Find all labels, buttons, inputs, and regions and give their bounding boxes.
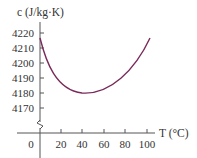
x-tick-labels: 0 20 40 60 80 100 — [28, 138, 156, 150]
svg-text:60: 60 — [99, 138, 111, 150]
svg-text:4180: 4180 — [12, 87, 35, 99]
svg-text:4190: 4190 — [12, 72, 35, 84]
svg-text:0: 0 — [28, 138, 34, 150]
specific-heat-curve — [40, 38, 150, 93]
svg-text:4220: 4220 — [12, 27, 35, 39]
svg-text:20: 20 — [56, 138, 68, 150]
svg-text:4200: 4200 — [12, 57, 35, 69]
chart: 4220 4210 4200 4190 4180 4170 0 20 40 60… — [0, 0, 197, 158]
svg-text:100: 100 — [139, 138, 156, 150]
svg-text:4170: 4170 — [12, 102, 35, 114]
y-tick-labels: 4220 4210 4200 4190 4180 4170 — [12, 27, 35, 114]
svg-text:4210: 4210 — [12, 42, 35, 54]
svg-text:80: 80 — [120, 138, 132, 150]
x-ticks — [61, 129, 147, 133]
x-axis-label: T (°C) — [159, 127, 189, 140]
y-axis-label: c (J/kg·K) — [17, 6, 64, 19]
svg-text:40: 40 — [77, 138, 89, 150]
